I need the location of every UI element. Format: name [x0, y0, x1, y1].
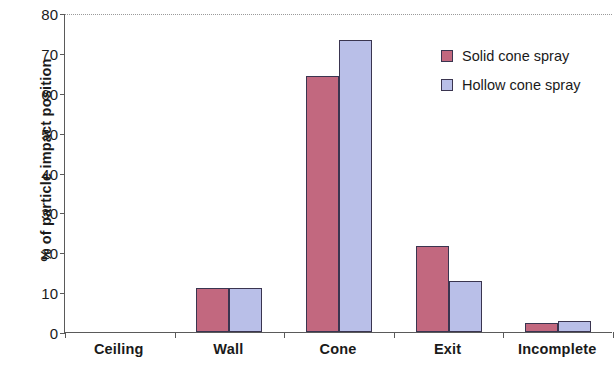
y-axis-tick-label: 60 — [14, 85, 58, 102]
y-axis-tick-label: 50 — [14, 125, 58, 142]
y-axis-tick-label: 40 — [14, 165, 58, 182]
bar-exit-series-2 — [449, 281, 482, 332]
bar-wall-series-1 — [196, 288, 229, 332]
x-axis-label-incomplete: Incomplete — [518, 341, 597, 357]
bar-wall-series-2 — [229, 288, 262, 332]
x-axis-label-exit: Exit — [434, 341, 461, 357]
bar-group-ceiling — [87, 14, 153, 332]
bar-incomplete-series-2 — [558, 321, 591, 332]
legend-label: Solid cone spray — [462, 48, 569, 64]
legend-entry-2: Hollow cone spray — [441, 77, 616, 93]
bar-cone-series-1 — [306, 76, 339, 332]
chart-legend: Solid cone sprayHollow cone spray — [441, 48, 616, 106]
x-axis-tick-mark — [613, 332, 614, 338]
x-axis-tick-mark — [394, 332, 395, 338]
x-axis-label-wall: Wall — [213, 341, 243, 357]
x-axis-label-ceiling: Ceiling — [94, 341, 144, 357]
x-axis-category-labels: CeilingWallConeExitIncomplete — [64, 341, 612, 371]
bar-incomplete-series-1 — [525, 323, 558, 332]
legend-swatch-icon — [441, 79, 453, 91]
y-axis-tick-label: 0 — [14, 325, 58, 342]
y-axis-tick-label: 20 — [14, 245, 58, 262]
y-axis-tick-label: 10 — [14, 285, 58, 302]
x-axis-tick-mark — [284, 332, 285, 338]
legend-label: Hollow cone spray — [462, 77, 580, 93]
bar-group-cone — [306, 14, 372, 332]
x-axis-tick-mark — [503, 332, 504, 338]
bar-group-wall — [196, 14, 262, 332]
legend-entry-1: Solid cone spray — [441, 48, 616, 64]
x-axis-tick-mark — [65, 332, 66, 338]
y-axis-tick-label: 30 — [14, 205, 58, 222]
y-axis-tick-label: 70 — [14, 45, 58, 62]
y-axis-tick-labels: 01020304050607080 — [14, 0, 58, 377]
x-axis-label-cone: Cone — [319, 341, 356, 357]
bar-cone-series-2 — [339, 40, 372, 332]
bar-exit-series-1 — [416, 246, 449, 332]
y-axis-tick-label: 80 — [14, 6, 58, 23]
x-axis-tick-mark — [175, 332, 176, 338]
legend-swatch-icon — [441, 50, 453, 62]
